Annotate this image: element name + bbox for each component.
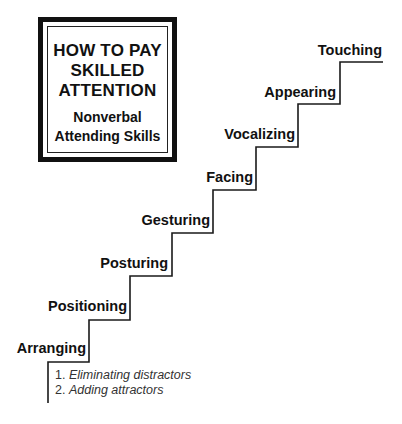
subitem-number: 2. [55,383,65,397]
step-label-facing: Facing [206,169,253,185]
step-label-positioning: Positioning [48,298,127,314]
arranging-subitems: 1. Eliminating distractors 2. Adding att… [55,368,191,398]
subitem-number: 1. [55,368,65,382]
subitem: 1. Eliminating distractors [55,368,191,383]
step-label-gesturing: Gesturing [142,212,210,228]
step-label-appearing: Appearing [264,84,336,100]
step-label-posturing: Posturing [100,255,168,271]
step-label-arranging: Arranging [17,340,86,356]
subitem-text: Adding attractors [69,383,164,397]
step-label-vocalizing: Vocalizing [224,126,295,142]
step-label-touching: Touching [318,42,382,58]
subitem-text: Eliminating distractors [69,368,191,382]
subitem: 2. Adding attractors [55,383,191,398]
